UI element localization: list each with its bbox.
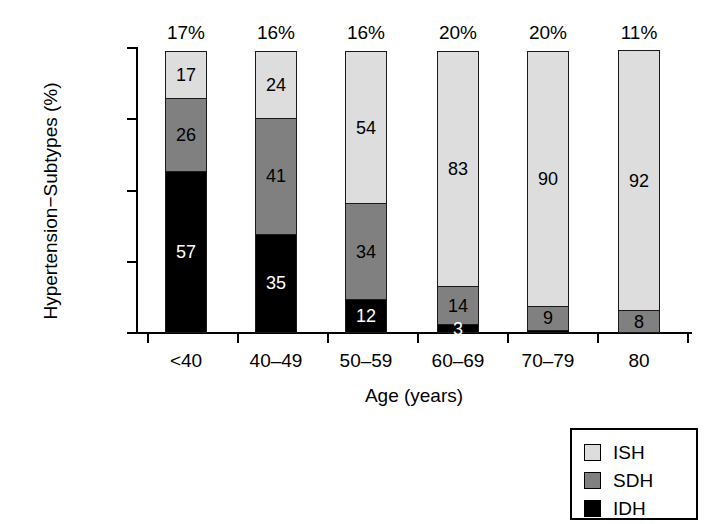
legend-swatch-ish (584, 444, 601, 461)
x-axis-tick (597, 334, 599, 343)
bar-segment-value: 90 (538, 170, 558, 188)
bar-segment-idh[interactable]: 57 (165, 171, 207, 333)
stacked-bar-chart: Hypertension−Subtypes (%) 0255075100 <40… (0, 0, 716, 524)
bar-segment-ish[interactable]: 83 (437, 51, 479, 287)
bar-segment-value: 12 (356, 307, 376, 325)
bar-segment-value: 14 (448, 297, 468, 315)
bar-segment-value: 35 (266, 274, 286, 292)
bar-top-annotation: 16% (321, 23, 411, 42)
bar-segment-idh[interactable]: 12 (345, 299, 387, 333)
bar-segment-value: 8 (634, 313, 644, 331)
x-axis-tick (327, 334, 329, 343)
bar-segment-value: 92 (629, 172, 649, 190)
bar[interactable]: 54341216% (345, 51, 387, 332)
legend-label: IDH (613, 499, 646, 518)
bar-top-annotation: 20% (503, 23, 593, 42)
bar[interactable]: 92811% (618, 50, 660, 332)
bar-segment-idh[interactable]: 3 (437, 324, 479, 333)
legend-swatch-idh (584, 500, 601, 517)
bar-segment-ish[interactable]: 24 (255, 51, 297, 119)
bar-segment-sdh[interactable]: 26 (165, 98, 207, 172)
bar-segment-value: 83 (448, 160, 468, 178)
bar-segment-value: 24 (266, 76, 286, 94)
legend-label: SDH (613, 471, 653, 490)
y-axis-line (136, 47, 138, 334)
x-axis-tick (687, 334, 689, 343)
bar-segment-idh[interactable] (527, 330, 569, 333)
legend-swatch-sdh (584, 472, 601, 489)
bar-segment-value: 9 (543, 309, 553, 327)
bar-segment-idh[interactable]: 35 (255, 234, 297, 333)
bar-segment-value: 26 (176, 126, 196, 144)
bar[interactable]: 24413516% (255, 51, 297, 332)
bar-top-annotation: 17% (141, 23, 231, 42)
y-axis-tick (127, 190, 136, 192)
bar[interactable]: 90920% (527, 51, 569, 332)
x-axis-tick-label: 80 (579, 350, 699, 372)
legend: ISHSDHIDH (570, 428, 698, 520)
bar-segment-sdh[interactable]: 9 (527, 306, 569, 332)
bar-segment-ish[interactable]: 92 (618, 50, 660, 311)
bar-segment-value: 57 (176, 243, 196, 261)
bar-segment-ish[interactable]: 17 (165, 51, 207, 99)
x-axis-tick (237, 334, 239, 343)
bar-top-annotation: 16% (231, 23, 321, 42)
bar-top-annotation: 20% (413, 23, 503, 42)
bar-segment-sdh[interactable]: 41 (255, 118, 297, 234)
y-axis-tick (127, 118, 136, 120)
x-axis-tick (417, 334, 419, 343)
x-axis-tick (147, 334, 149, 343)
x-axis-line (136, 332, 692, 334)
bar-segment-value: 41 (266, 167, 286, 185)
bar-segment-value: 54 (356, 119, 376, 137)
plot-area: 0255075100 <4040–4950–5960–6970–7980 172… (136, 47, 692, 333)
x-axis-label: Age (years) (136, 385, 692, 407)
y-axis-label: Hypertension−Subtypes (%) (40, 46, 62, 356)
bar-segment-value: 34 (356, 243, 376, 261)
legend-item[interactable]: IDH (584, 494, 696, 522)
bar[interactable]: 17265717% (165, 51, 207, 332)
legend-label: ISH (613, 443, 645, 462)
bar-segment-value: 17 (176, 66, 196, 84)
bar[interactable]: 8314320% (437, 51, 479, 332)
bar-segment-sdh[interactable]: 8 (618, 310, 660, 333)
bar-segment-value: 3 (453, 320, 463, 338)
legend-item[interactable]: SDH (584, 466, 696, 494)
bar-segment-ish[interactable]: 54 (345, 51, 387, 204)
y-axis-tick (127, 261, 136, 263)
bar-top-annotation: 11% (594, 23, 684, 42)
bar-segment-ish[interactable]: 90 (527, 51, 569, 307)
bar-segment-sdh[interactable]: 34 (345, 203, 387, 300)
legend-item[interactable]: ISH (584, 438, 696, 466)
y-axis-tick (127, 332, 136, 334)
x-axis-tick (507, 334, 509, 343)
y-axis-tick (127, 47, 136, 49)
